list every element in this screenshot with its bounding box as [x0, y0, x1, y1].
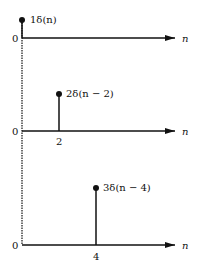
panel-2-impulse-label: 2δ(n − 2) [66, 88, 114, 99]
panel-1-impulse-dot [19, 17, 25, 23]
panel-2-tick-label: 2 [56, 136, 62, 147]
panel-1-axis-label: n [182, 33, 188, 44]
panel-3-tick-label: 4 [93, 251, 99, 262]
panel-1-impulse-label: 1δ(n) [30, 14, 57, 25]
panel-3: 3δ(n − 4) 0 4 n [12, 182, 188, 262]
panel-2-origin-label: 0 [12, 126, 18, 137]
panel-2: 2δ(n − 2) 0 2 n [12, 88, 188, 147]
panel-2-axis-label: n [182, 126, 188, 137]
panel-3-impulse-dot [93, 185, 99, 191]
panel-1-origin-label: 0 [12, 33, 18, 44]
panel-3-origin-label: 0 [12, 240, 18, 251]
panel-3-impulse-label: 3δ(n − 4) [103, 182, 151, 193]
panel-2-impulse-dot [56, 91, 62, 97]
panel-3-axis-label: n [182, 240, 188, 251]
panel-1: 1δ(n) 0 n [12, 14, 188, 44]
impulse-diagram: 1δ(n) 0 n 2δ(n − 2) 0 2 n 3δ(n − 4) 0 4 … [0, 0, 197, 271]
